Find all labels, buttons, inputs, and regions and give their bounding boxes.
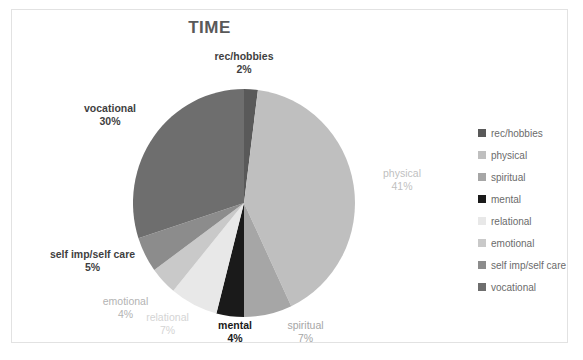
slice-label-vocational: vocational 30%	[40, 102, 180, 128]
legend-item-label: relational	[491, 216, 532, 227]
slice-label-name: spiritual	[258, 319, 353, 332]
slice-label-name: rec/hobbies	[174, 50, 314, 63]
slice-label-name: emotional	[78, 295, 173, 308]
slice-label-value: 7%	[258, 332, 353, 345]
legend-item-label: spiritual	[491, 172, 525, 183]
legend-swatch-icon	[478, 261, 486, 269]
legend-item-label: rec/hobbies	[491, 128, 543, 139]
slice-label-name: vocational	[40, 102, 180, 115]
slice-label-value: 2%	[174, 63, 314, 76]
slice-label-spiritual: spiritual 7%	[258, 319, 353, 345]
legend-item[interactable]: mental	[478, 188, 583, 210]
legend-swatch-icon	[478, 195, 486, 203]
legend-item-label: vocational	[491, 282, 536, 293]
slice-label-name: physical	[357, 167, 447, 180]
legend-item[interactable]: rec/hobbies	[478, 122, 583, 144]
legend-swatch-icon	[478, 217, 486, 225]
legend-item-label: self imp/self care	[491, 260, 566, 271]
slice-label-value: 30%	[40, 115, 180, 128]
chart-title: TIME	[0, 18, 487, 38]
legend-item[interactable]: vocational	[478, 276, 583, 298]
legend-swatch-icon	[478, 239, 486, 247]
legend-swatch-icon	[478, 283, 486, 291]
slice-label-self-imp-self-care: self imp/self care 5%	[20, 248, 165, 274]
legend-item[interactable]: relational	[478, 210, 583, 232]
slice-label-rec-hobbies: rec/hobbies 2%	[174, 50, 314, 76]
slice-label-value: 5%	[20, 261, 165, 274]
chart-container: TIME rec/hobbies 2% vocational 30% self …	[11, 9, 568, 343]
legend-item-label: emotional	[491, 238, 534, 249]
slice-label-value: 41%	[357, 180, 447, 193]
legend-swatch-icon	[478, 151, 486, 159]
legend-swatch-icon	[478, 129, 486, 137]
legend-swatch-icon	[478, 173, 486, 181]
legend-item[interactable]: physical	[478, 144, 583, 166]
chart-legend: rec/hobbiesphysicalspiritualmentalrelati…	[478, 122, 583, 298]
slice-label-physical: physical 41%	[357, 167, 447, 193]
legend-item-label: mental	[491, 194, 521, 205]
legend-item[interactable]: self imp/self care	[478, 254, 583, 276]
legend-item[interactable]: spiritual	[478, 166, 583, 188]
slice-label-name: self imp/self care	[20, 248, 165, 261]
legend-item-label: physical	[491, 150, 527, 161]
legend-item[interactable]: emotional	[478, 232, 583, 254]
